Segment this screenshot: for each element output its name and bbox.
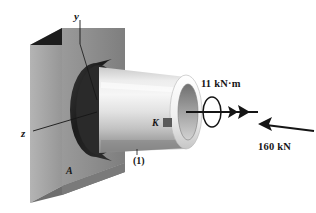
engineering-figure: y z A K (1) 11 kN·m 160 kN — [0, 0, 316, 213]
y-axis-label: y — [74, 11, 79, 22]
figure-canvas — [0, 0, 316, 213]
torque-value-label: 11 kN·m — [201, 79, 241, 90]
tube-lower-shade — [101, 140, 186, 152]
point-k-label: K — [152, 118, 159, 128]
point-a-label: A — [66, 166, 73, 176]
z-axis-label: z — [21, 128, 25, 139]
wall-side-face — [30, 28, 62, 203]
point-k-marker — [163, 118, 172, 127]
force-value-label: 160 kN — [258, 142, 291, 153]
force-arrow-shaft — [266, 125, 314, 131]
member-1-label: (1) — [133, 156, 145, 166]
force-arrowhead — [258, 117, 272, 131]
